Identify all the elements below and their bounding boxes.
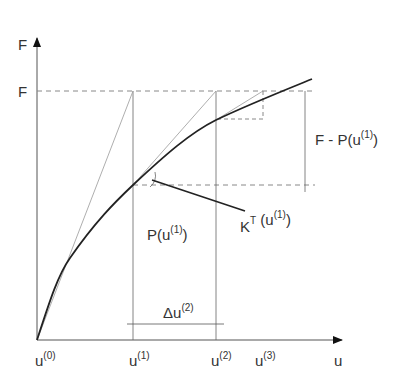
tick-u0: u(0) (35, 350, 56, 369)
tick-u2: u(2) (211, 350, 232, 369)
p-u1-label: P(u(1)) (147, 224, 188, 243)
tangent-at-u1-line (133, 91, 216, 185)
newton-raphson-diagram: F F u u(0) u(1) u(2) u(3) Δu(2) P(u(1)) … (0, 0, 393, 390)
x-axis-label: u (334, 352, 342, 369)
load-displacement-curve (37, 79, 312, 340)
initial-tangent-line (37, 91, 133, 340)
tangent-at-u2-line (216, 91, 263, 120)
kt-label: KT (u(1)) (240, 209, 291, 235)
delta-u-label: Δu(2) (163, 302, 194, 321)
tick-u3: u(3) (255, 350, 276, 369)
tick-u1: u(1) (129, 350, 150, 369)
f-level-label: F (18, 83, 27, 100)
residual-label: F - P(u(1)) (315, 129, 378, 148)
y-axis-label: F (18, 36, 27, 53)
